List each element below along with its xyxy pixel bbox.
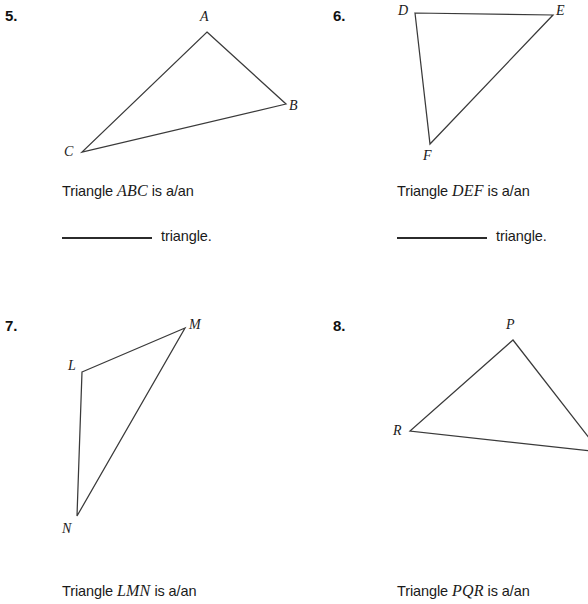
triangle-figure-pqr	[0, 0, 588, 604]
triangle-name-8: PQR	[452, 582, 484, 599]
prompt-prefix-8: Triangle	[397, 583, 452, 599]
triangle-pqr-outline	[410, 340, 588, 452]
prompt-text-8: Triangle PQR is a/an	[397, 582, 530, 600]
prompt-suffix-8: is a/an	[484, 583, 530, 599]
worksheet-page: 5. A B C Triangle ABC is a/an triangle. …	[0, 0, 588, 604]
vertex-label-p: P	[506, 318, 515, 332]
vertex-label-r: R	[393, 424, 402, 438]
